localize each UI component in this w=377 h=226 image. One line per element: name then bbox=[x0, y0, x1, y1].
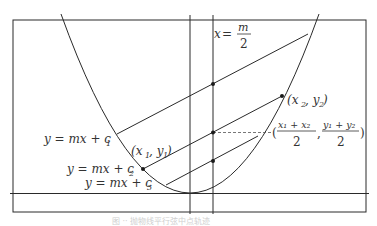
label-point-x1-y1: (x 1 , y 1 ) bbox=[131, 144, 172, 160]
midpoint-dot-chord-2 bbox=[211, 131, 215, 135]
point-x1-y1-dot bbox=[141, 167, 145, 171]
chord-3-subscript: 3 bbox=[147, 183, 152, 192]
label-chord-3: y = mx + c 3 bbox=[84, 176, 152, 192]
figure-caption: 图 ·· 抛物线平行弦中点轨迹 bbox=[112, 216, 210, 226]
mid-x-numerator: x₁ + x₂ bbox=[278, 119, 311, 130]
p2-mid: , y bbox=[305, 93, 320, 107]
p1-close: ) bbox=[166, 144, 172, 158]
mid-close: ) bbox=[360, 126, 365, 140]
mid-y-numerator: y₁ + y₂ bbox=[322, 119, 356, 130]
label-x-equals-m-over-2: x = m 2 bbox=[214, 21, 251, 51]
label-2: 2 bbox=[240, 37, 248, 51]
mid-y-denominator: 2 bbox=[337, 135, 345, 149]
label-x: x bbox=[214, 27, 221, 41]
chord-1-subscript: 1 bbox=[106, 139, 111, 148]
p2-close: ) bbox=[322, 93, 328, 107]
mid-open: ( bbox=[272, 126, 277, 140]
label-point-x2-y2: (x 2 , y 2 ) bbox=[287, 93, 328, 109]
point-x2-y2-dot bbox=[280, 94, 284, 98]
label-chord-1: y = mx + c 1 bbox=[43, 132, 111, 148]
label-equals: = bbox=[222, 27, 232, 41]
chord-3-equation: y = mx + c bbox=[84, 176, 152, 190]
midpoint-dot-chord-3 bbox=[211, 159, 215, 163]
midpoint-dot-chord-1 bbox=[211, 82, 215, 86]
mid-x-denominator: 2 bbox=[293, 135, 301, 149]
label-m: m bbox=[238, 21, 248, 34]
parabola-chord-diagram: x = m 2 y = mx + c 1 y = mx + c 2 y = mx… bbox=[0, 0, 377, 226]
chord-2-equation: y = mx + c bbox=[66, 162, 134, 176]
p2-open: (x bbox=[287, 93, 299, 107]
p1-open: (x bbox=[131, 144, 143, 158]
p1-mid: , y bbox=[149, 144, 164, 158]
label-midpoint-coordinates: ( x₁ + x₂ 2 , y₁ + y₂ 2 ) bbox=[272, 119, 365, 149]
chord-1-equation: y = mx + c bbox=[43, 132, 111, 146]
mid-comma: , bbox=[317, 126, 321, 140]
